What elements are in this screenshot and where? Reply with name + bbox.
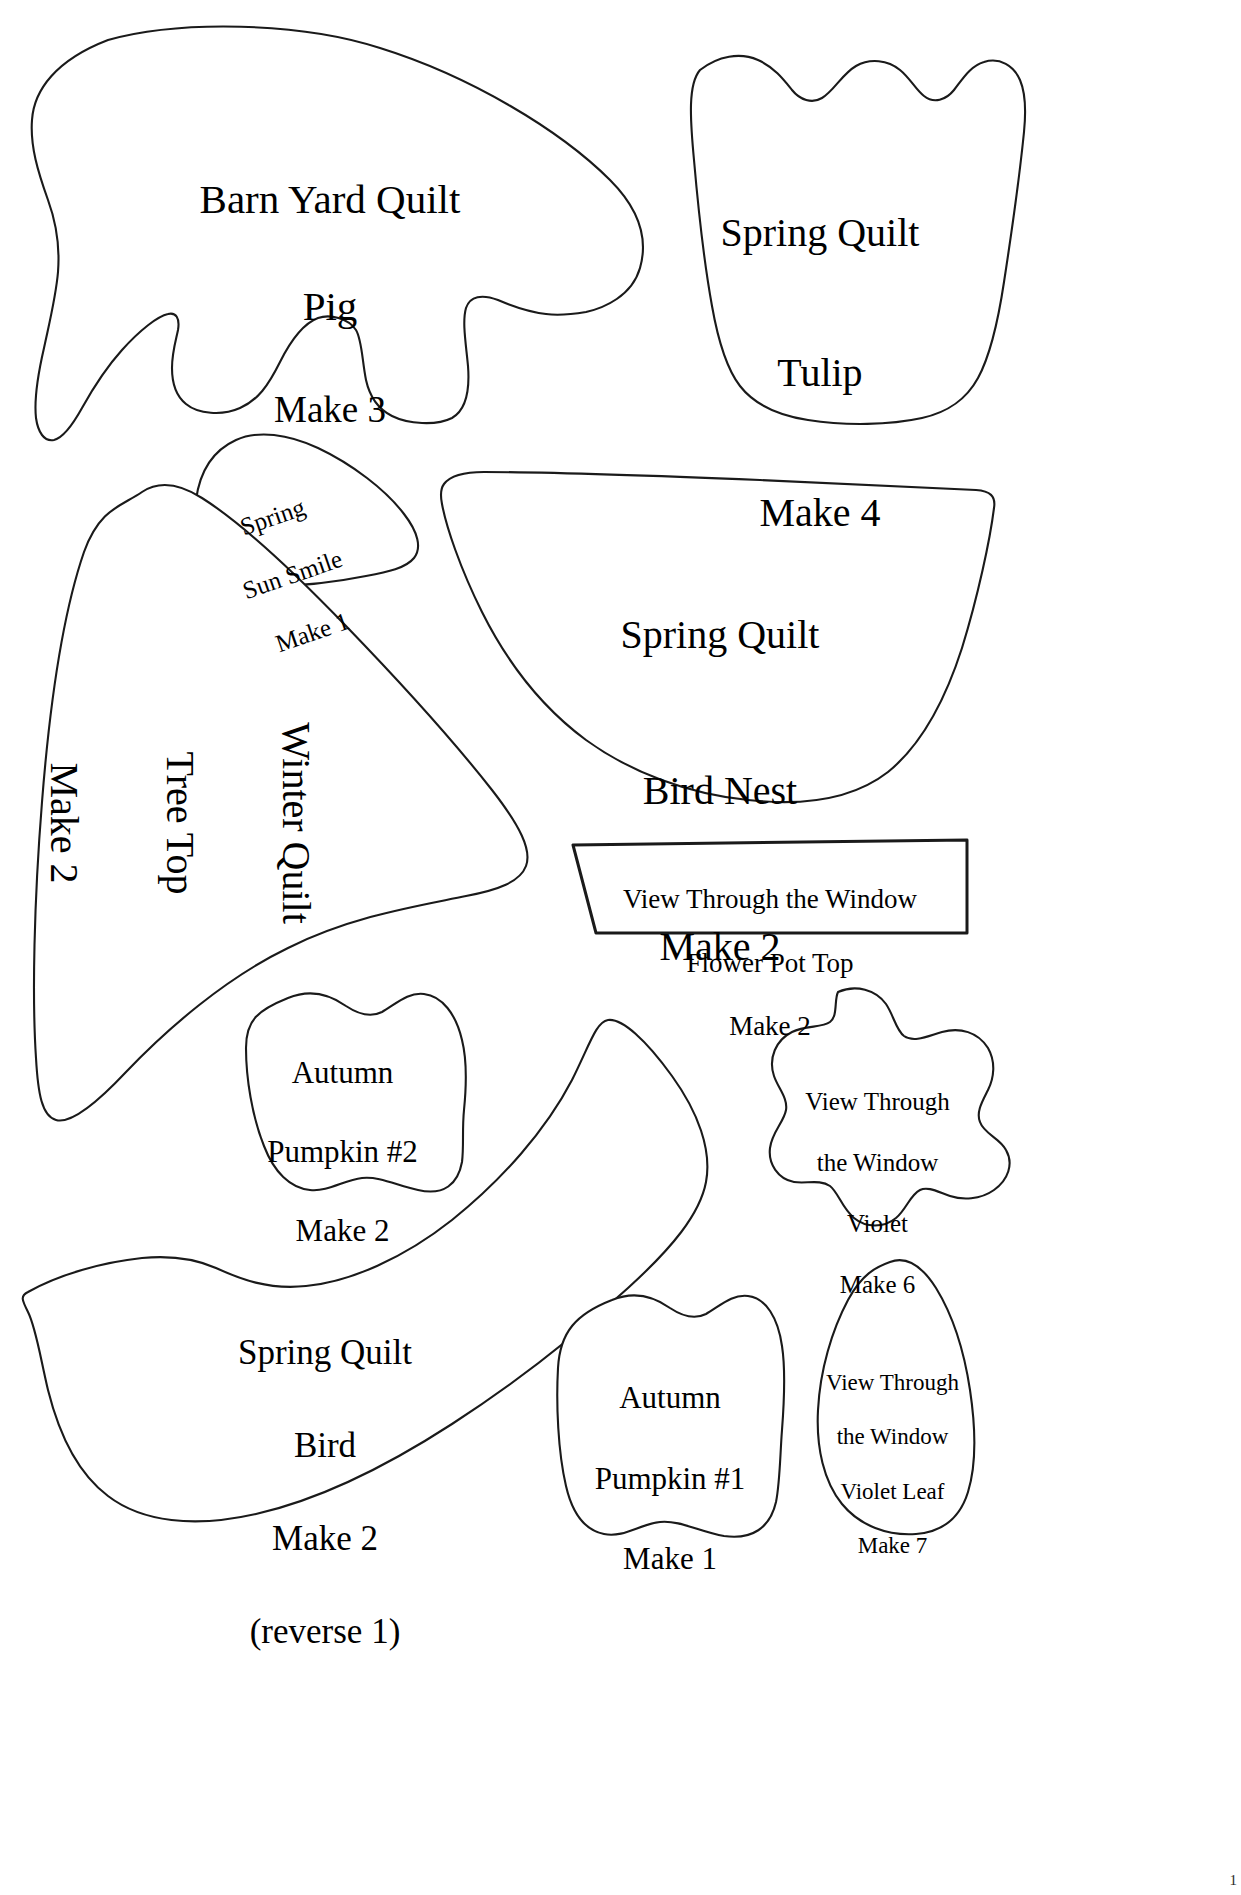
piece-outline-pig[interactable] (32, 27, 643, 441)
piece-outline-violet[interactable] (770, 988, 1010, 1225)
piece-outline-bird-nest[interactable] (441, 472, 994, 802)
piece-outline-flower-pot-top[interactable] (573, 840, 967, 933)
piece-outline-pumpkin-1[interactable] (557, 1295, 784, 1536)
piece-outline-violet-leaf[interactable] (818, 1260, 975, 1534)
piece-outline-tulip[interactable] (691, 56, 1025, 424)
piece-outline-pumpkin-2[interactable] (246, 993, 466, 1191)
pattern-shapes-canvas (0, 0, 1241, 1895)
pattern-sheet-page: Barn Yard Quilt Pig Make 3 Spring Quilt … (0, 0, 1241, 1895)
page-number: 1 (1230, 1872, 1238, 1889)
